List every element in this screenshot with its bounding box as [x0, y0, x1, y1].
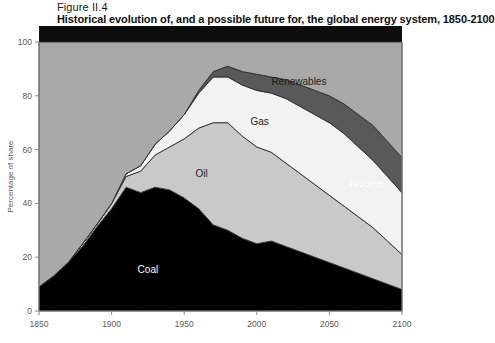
y-tick-label: 20	[23, 252, 33, 262]
y-axis-title: Percentage of share	[6, 140, 15, 213]
figure-number: Figure II.4	[57, 1, 108, 13]
x-tick-label: 2000	[247, 319, 266, 329]
stacked-area-chart: 020406080100185019001950200020502100Perc…	[0, 26, 418, 343]
y-tick-label: 80	[23, 91, 33, 101]
y-tick-label: 100	[18, 37, 32, 47]
x-tick-label: 2100	[393, 319, 412, 329]
series-label-nuclear: Nuclear	[350, 178, 385, 189]
x-axis-ticks: 185019001950200020502100	[30, 311, 412, 329]
x-tick-label: 1950	[175, 319, 194, 329]
x-tick-label: 2050	[320, 319, 339, 329]
plot-area: 020406080100185019001950200020502100Perc…	[0, 26, 418, 343]
series-label-gas: Gas	[251, 116, 269, 127]
series-label-renewables: Renewables	[271, 76, 326, 87]
chart-top-band	[39, 26, 402, 42]
y-axis-ticks: 020406080100	[18, 37, 39, 316]
series-layers	[39, 42, 402, 311]
series-label-coal: Coal	[138, 264, 159, 275]
x-tick-label: 1850	[30, 319, 49, 329]
y-tick-label: 40	[23, 198, 33, 208]
series-label-oil: Oil	[196, 168, 208, 179]
x-tick-label: 1900	[102, 319, 121, 329]
y-tick-label: 60	[23, 145, 33, 155]
figure-title: Historical evolution of, and a possible …	[57, 13, 495, 26]
y-tick-label: 0	[27, 306, 32, 316]
